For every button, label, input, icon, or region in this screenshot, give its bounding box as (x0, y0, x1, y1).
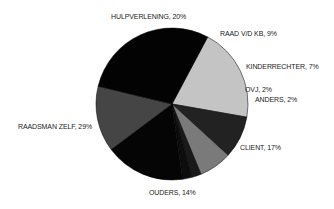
pie-slices (96, 28, 248, 180)
label-raadsman-zelf: RAADSMAN ZELF, 29% (18, 123, 92, 131)
label-kinderrechter: KINDERRECHTER, 7% (246, 63, 319, 71)
label-hulpverlening: HULPVERLENING, 20% (111, 13, 186, 21)
label-anders: ANDERS, 2% (255, 96, 297, 104)
label-raad-vd-kb: RAAD V/D KB, 9% (220, 30, 277, 38)
pie-chart (0, 0, 334, 209)
label-ovj: OVJ, 2% (245, 86, 272, 94)
label-client: CLIENT, 17% (240, 144, 281, 152)
label-ouders: OUDERS, 14% (149, 189, 196, 197)
